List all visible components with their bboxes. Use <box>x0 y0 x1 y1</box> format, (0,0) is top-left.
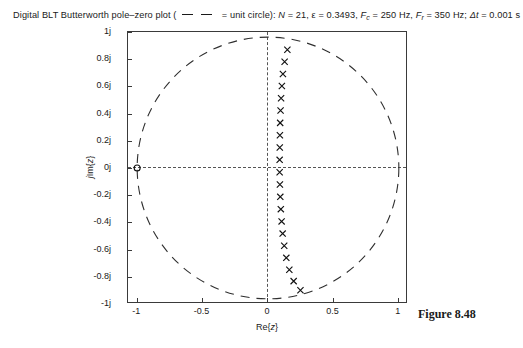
unit-circle-legend-dash-icon <box>180 11 218 17</box>
pole-zero-plot-area <box>127 31 407 303</box>
y-axis-title-suffix: } <box>85 156 95 159</box>
y-axis-title-mid: Im{ <box>85 163 95 176</box>
pole-marker <box>277 107 283 113</box>
pole-marker <box>277 144 283 150</box>
x-axis-title-prefix: Re{ <box>256 322 271 332</box>
param-dt-value: = 0.001 s <box>479 10 521 20</box>
param-epsilon-value: = 0.3493, <box>316 10 361 20</box>
plot-title: Digital BLT Butterworth pole–zero plot (… <box>13 9 513 24</box>
ytick-label-neg0_6: -0.6j <box>93 244 111 254</box>
xtick-label-neg0_5: -0.5 <box>194 306 210 316</box>
pole-marker <box>284 47 290 53</box>
pole-marker <box>277 132 283 138</box>
plot-overlay <box>128 32 406 302</box>
param-n-value: = 21, <box>285 10 312 20</box>
xtick-label-0_5: 0.5 <box>326 306 339 316</box>
pole-marker <box>282 59 288 65</box>
ytick-label-0_2: 0.2j <box>96 135 111 145</box>
pole-marker <box>291 278 297 284</box>
pole-marker <box>281 243 287 249</box>
pole-marker <box>278 95 284 101</box>
x-axis-title: Re{z} <box>256 322 278 332</box>
y-axis-title-prefix: j <box>85 176 95 178</box>
xtick-label-neg1: -1 <box>132 306 140 316</box>
figure-caption: Figure 8.48 <box>418 307 476 322</box>
pole-marker <box>277 181 283 187</box>
plot-inner <box>128 32 406 302</box>
pole-markers <box>277 47 304 294</box>
xtick-label-0: 0 <box>264 306 269 316</box>
x-axis-title-suffix: } <box>275 322 278 332</box>
pole-marker <box>277 120 283 126</box>
ytick-label-0: 0j <box>104 162 111 172</box>
y-axis-title: jIm{z} <box>85 156 95 179</box>
pole-marker <box>280 230 286 236</box>
ytick-label-neg0_4: -0.4j <box>93 216 111 226</box>
plot-title-legend-text: = unit circle): <box>222 10 276 20</box>
ytick-label-0_6: 0.6j <box>96 80 111 90</box>
y-axis-title-var: z <box>85 159 95 164</box>
pole-marker <box>297 287 303 293</box>
param-fr-symbol: Fr <box>416 10 424 20</box>
xtick-label-1: 1 <box>395 306 400 316</box>
param-dt-symbol: Δt <box>470 10 479 20</box>
pole-marker <box>279 218 285 224</box>
param-fc-value: = 250 Hz, <box>370 10 416 20</box>
pole-marker <box>277 157 283 163</box>
ytick-label-0_8: 0.8j <box>96 53 111 63</box>
ytick-label-neg0_2: -0.2j <box>93 189 111 199</box>
pole-marker <box>277 194 283 200</box>
plot-title-prefix: Digital BLT Butterworth pole–zero plot ( <box>13 10 177 20</box>
pole-marker <box>278 206 284 212</box>
ytick-label-neg1: -1j <box>101 298 111 308</box>
figure-root: Digital BLT Butterworth pole–zero plot (… <box>0 0 523 348</box>
param-fc-symbol: Fc <box>361 10 370 20</box>
pole-marker <box>283 255 289 261</box>
pole-marker <box>279 83 285 89</box>
ytick-label-neg0_8: -0.8j <box>93 271 111 281</box>
param-fr-value: = 350 Hz; <box>424 10 470 20</box>
ytick-label-1: 1j <box>104 26 111 36</box>
ytick-label-0_4: 0.4j <box>96 108 111 118</box>
pole-marker <box>277 169 283 175</box>
unit-circle <box>137 37 399 299</box>
pole-marker <box>286 267 292 273</box>
pole-marker <box>280 71 286 77</box>
